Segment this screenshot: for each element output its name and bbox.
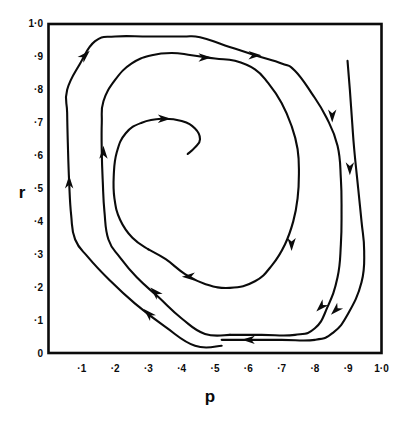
x-tick-label: ·4: [177, 363, 186, 374]
y-tick-label: 1·0: [29, 18, 44, 29]
x-axis-tick-labels: ·1 ·2 ·3 ·4 ·5 ·6 ·7 ·8 ·9 1·0: [77, 363, 389, 374]
trajectory-inner-turn: [102, 53, 299, 336]
x-tick-label: ·2: [111, 363, 120, 374]
x-tick-label: ·1: [77, 363, 86, 374]
y-tick-label: ·5: [34, 183, 43, 194]
x-tick-label: ·6: [244, 363, 253, 374]
direction-arrow-icon: [346, 162, 354, 175]
direction-arrow-icon: [287, 238, 295, 251]
direction-arrow-icon: [78, 48, 93, 63]
trajectory-layer: [66, 36, 364, 348]
y-tick-label: ·4: [34, 216, 43, 227]
y-tick-label: ·6: [34, 150, 43, 161]
phase-portrait-figure: 1·0 ·9 ·8 ·7 ·6 ·5 ·4 ·3 ·2 ·1 0 ·1 ·2 ·…: [0, 0, 412, 423]
direction-arrow-icon: [147, 285, 162, 300]
direction-arrow-icon: [248, 51, 261, 59]
trajectory-middle-turn: [66, 36, 342, 348]
x-tick-label: ·8: [310, 363, 319, 374]
y-tick-label: ·9: [34, 51, 43, 62]
plot-frame: [49, 24, 382, 353]
trajectory-outer-turn: [222, 61, 365, 341]
x-tick-label: 1·0: [374, 363, 389, 374]
y-tick-label: ·2: [34, 282, 43, 293]
direction-arrow-icon: [99, 146, 107, 159]
x-tick-label: ·5: [211, 363, 220, 374]
x-tick-label: ·9: [344, 363, 353, 374]
direction-arrow-icon: [328, 303, 343, 318]
y-tick-label: ·8: [34, 84, 43, 95]
y-tick-label: 0: [37, 348, 43, 359]
y-axis-title: r: [19, 183, 26, 202]
trajectory-innermost-turn: [113, 119, 200, 250]
y-tick-label: ·3: [34, 249, 43, 260]
direction-arrow-icon: [199, 53, 212, 61]
x-axis-title: p: [205, 387, 215, 406]
x-tick-label: ·3: [144, 363, 153, 374]
y-tick-label: ·1: [34, 315, 43, 326]
y-tick-label: ·7: [34, 117, 43, 128]
x-tick-label: ·7: [277, 363, 286, 374]
direction-arrow-icon: [328, 110, 336, 123]
y-axis-tick-labels: 1·0 ·9 ·8 ·7 ·6 ·5 ·4 ·3 ·2 ·1 0: [29, 18, 44, 359]
